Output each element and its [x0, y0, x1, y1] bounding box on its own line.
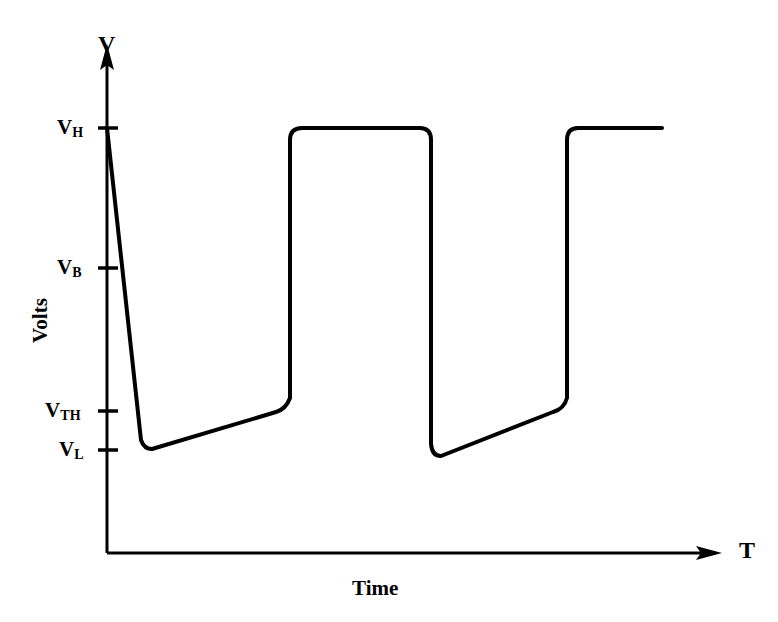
tick-label-v-high: VH	[57, 117, 83, 140]
tick-label-v-bias-sub: B	[72, 265, 82, 280]
tick-label-v-low-base: V	[59, 437, 74, 461]
tick-label-v-bias-base: V	[57, 255, 72, 279]
tick-label-v-threshold-base: V	[45, 398, 60, 422]
y-axis	[100, 44, 114, 553]
tick-label-v-threshold: VTH	[45, 400, 81, 423]
waveform-svg	[0, 0, 778, 622]
tick-label-v-high-base: V	[57, 115, 72, 139]
tick-label-v-bias: VB	[57, 257, 82, 280]
waveform-trace	[107, 128, 662, 456]
x-axis-symbol-label: T	[739, 538, 755, 562]
y-axis-symbol-label: V	[98, 32, 115, 56]
tick-label-v-low-sub: L	[74, 447, 84, 462]
y-axis-title: Volts	[30, 298, 51, 343]
tick-label-v-threshold-sub: TH	[60, 408, 81, 423]
x-axis	[107, 546, 722, 560]
tick-label-v-high-sub: H	[72, 125, 83, 140]
waveform-figure: V T Volts Time VH VB VTH VL	[0, 0, 778, 622]
tick-label-v-low: VL	[59, 439, 84, 462]
x-axis-title: Time	[352, 578, 398, 599]
